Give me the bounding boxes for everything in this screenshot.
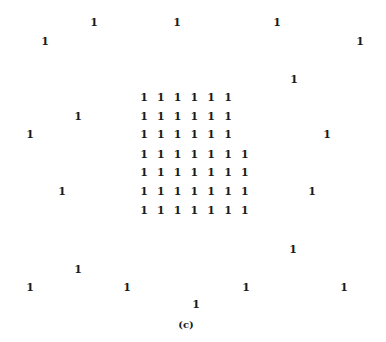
grid-cell: 1 [207, 186, 215, 198]
scattered-value: 1 [90, 17, 98, 29]
grid-cell: 1 [241, 205, 249, 217]
figure-canvas: 1111111111111111111111111111111111111111… [0, 0, 386, 342]
grid-cell: 1 [207, 149, 215, 161]
scattered-value: 1 [323, 129, 331, 141]
grid-cell: 1 [224, 111, 232, 123]
grid-cell: 1 [224, 129, 232, 141]
grid-cell: 1 [140, 205, 148, 217]
scattered-value: 1 [192, 299, 200, 311]
grid-cell: 1 [207, 167, 215, 179]
grid-cell: 1 [140, 149, 148, 161]
grid-cell: 1 [157, 167, 165, 179]
grid-cell: 1 [207, 129, 215, 141]
grid-cell: 1 [174, 92, 182, 104]
grid-cell: 1 [207, 92, 215, 104]
scattered-value: 1 [123, 282, 131, 294]
grid-cell: 1 [157, 129, 165, 141]
grid-cell: 1 [191, 186, 199, 198]
grid-cell: 1 [191, 92, 199, 104]
grid-cell: 1 [191, 205, 199, 217]
scattered-value: 1 [273, 17, 281, 29]
grid-cell: 1 [174, 129, 182, 141]
scattered-value: 1 [26, 129, 34, 141]
grid-cell: 1 [174, 149, 182, 161]
grid-cell: 1 [207, 111, 215, 123]
grid-cell: 1 [191, 111, 199, 123]
grid-cell: 1 [174, 111, 182, 123]
grid-cell: 1 [140, 129, 148, 141]
scattered-value: 1 [289, 244, 297, 256]
grid-cell: 1 [241, 186, 249, 198]
grid-cell: 1 [157, 186, 165, 198]
grid-cell: 1 [224, 149, 232, 161]
figure-caption: (c) [178, 319, 194, 331]
scattered-value: 1 [41, 36, 49, 48]
grid-cell: 1 [157, 205, 165, 217]
scattered-value: 1 [290, 74, 298, 86]
grid-cell: 1 [140, 186, 148, 198]
grid-cell: 1 [241, 149, 249, 161]
grid-cell: 1 [157, 111, 165, 123]
grid-cell: 1 [224, 186, 232, 198]
grid-cell: 1 [157, 92, 165, 104]
grid-cell: 1 [174, 186, 182, 198]
grid-cell: 1 [140, 167, 148, 179]
grid-cell: 1 [207, 205, 215, 217]
scattered-value: 1 [58, 186, 66, 198]
scattered-value: 1 [356, 36, 364, 48]
grid-cell: 1 [157, 149, 165, 161]
grid-cell: 1 [241, 167, 249, 179]
scattered-value: 1 [74, 111, 82, 123]
grid-cell: 1 [140, 92, 148, 104]
scattered-value: 1 [340, 282, 348, 294]
grid-cell: 1 [224, 205, 232, 217]
grid-cell: 1 [224, 92, 232, 104]
grid-cell: 1 [224, 167, 232, 179]
scattered-value: 1 [308, 186, 316, 198]
scattered-value: 1 [26, 282, 34, 294]
grid-cell: 1 [191, 129, 199, 141]
scattered-value: 1 [74, 264, 82, 276]
grid-cell: 1 [140, 111, 148, 123]
grid-cell: 1 [174, 205, 182, 217]
grid-cell: 1 [191, 167, 199, 179]
grid-cell: 1 [191, 149, 199, 161]
scattered-value: 1 [242, 282, 250, 294]
grid-cell: 1 [174, 167, 182, 179]
scattered-value: 1 [173, 17, 181, 29]
